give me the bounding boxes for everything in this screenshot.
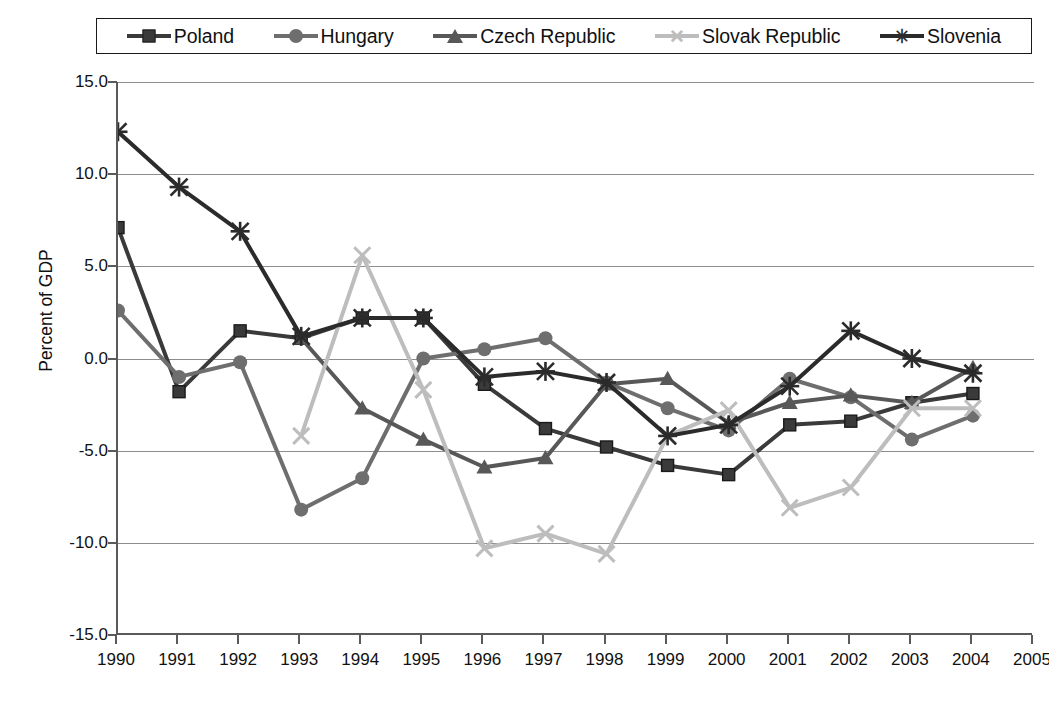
x-axis-tick-mark: [726, 635, 728, 644]
x-marker-icon: ✕: [655, 27, 699, 45]
legend-item-label: Slovak Republic: [699, 25, 840, 48]
x-axis-tick-label: 2005: [997, 650, 1049, 670]
x-axis-tick-label: 2003: [875, 650, 945, 670]
legend-item-label: Poland: [171, 25, 234, 48]
legend-item-label: Czech Republic: [477, 25, 615, 48]
data-point-marker: [536, 362, 555, 381]
data-point-marker: [905, 433, 919, 447]
data-point-marker: [475, 367, 494, 386]
data-point-marker: [172, 370, 186, 384]
data-point-marker: [845, 415, 857, 427]
x-axis-tick-label: 1994: [325, 650, 395, 670]
legend-item-label: Hungary: [318, 25, 394, 48]
data-point-marker: [967, 388, 979, 400]
triangle-marker-icon: [433, 27, 477, 45]
x-axis-tick-label: 1997: [508, 650, 578, 670]
legend-item-hungary[interactable]: Hungary: [274, 25, 394, 48]
x-axis-tick-mark: [237, 635, 239, 644]
data-point-marker: [597, 373, 616, 392]
data-point-marker: [719, 415, 738, 434]
x-axis-tick-mark: [298, 635, 300, 644]
x-axis-tick-label: 1995: [386, 650, 456, 670]
x-axis-tick-label: 2000: [692, 650, 762, 670]
x-axis-tick-mark: [604, 635, 606, 644]
series-slovak-republic: [293, 247, 981, 562]
data-series-svg: [118, 82, 1034, 635]
data-point-marker: [294, 503, 308, 517]
y-axis-tick-label: -10.0: [18, 533, 108, 553]
x-axis-tick-mark: [665, 635, 667, 644]
data-point-marker: [966, 409, 980, 423]
data-point-marker: [233, 355, 247, 369]
data-point-marker: [292, 327, 311, 346]
circle-marker-icon: [274, 27, 318, 45]
legend-item-poland[interactable]: Poland: [127, 25, 234, 48]
x-axis-tick-marks: [116, 635, 1032, 649]
x-axis-tick-mark: [115, 635, 117, 644]
y-axis-tick-label: 15.0: [18, 72, 108, 92]
data-point-marker: [416, 352, 430, 366]
x-axis-tick-label: 1999: [631, 650, 701, 670]
data-point-marker: [780, 377, 799, 396]
x-axis-tick-label: 2001: [753, 650, 823, 670]
x-axis-tick-label: 1992: [203, 650, 273, 670]
x-axis-tick-mark: [481, 635, 483, 644]
legend-marker-sample: ✕: [669, 27, 685, 46]
legend-marker-sample: ✳: [894, 27, 910, 46]
plot-area: [116, 82, 1032, 635]
square-marker-icon: [127, 27, 171, 45]
x-axis-tick-mark: [420, 635, 422, 644]
y-axis-tick-label: 0.0: [18, 349, 108, 369]
x-axis-tick-mark: [1031, 635, 1033, 644]
data-point-marker: [173, 386, 185, 398]
data-point-marker: [539, 423, 551, 435]
y-axis-tick-label: -5.0: [18, 441, 108, 461]
data-point-marker: [601, 441, 613, 453]
legend-marker-sample: [447, 29, 463, 43]
y-axis-tick-label: 10.0: [18, 164, 108, 184]
data-point-marker: [841, 321, 860, 340]
legend-item-slovenia[interactable]: ✳Slovenia: [880, 25, 1001, 48]
legend-item-czech-republic[interactable]: Czech Republic: [433, 25, 615, 48]
legend-marker-sample: [289, 29, 303, 43]
x-axis-tick-labels: 1990199119921993199419951996199719981999…: [116, 650, 1032, 680]
data-point-marker: [723, 469, 735, 481]
x-axis-tick-label: 2004: [936, 650, 1006, 670]
data-point-marker: [355, 471, 369, 485]
data-point-marker: [118, 222, 124, 234]
x-axis-tick-mark: [909, 635, 911, 644]
legend-item-slovak-republic[interactable]: ✕Slovak Republic: [655, 25, 840, 48]
data-point-marker: [414, 308, 433, 327]
star-marker-icon: ✳: [880, 27, 924, 45]
series-line: [118, 228, 973, 475]
x-axis-tick-label: 1996: [447, 650, 517, 670]
data-point-marker: [784, 419, 796, 431]
series-line: [118, 132, 973, 436]
x-axis-tick-label: 1991: [142, 650, 212, 670]
x-axis-tick-label: 1993: [264, 650, 334, 670]
x-axis-tick-mark: [848, 635, 850, 644]
data-point-marker: [415, 382, 431, 398]
legend-marker-sample: [142, 30, 155, 43]
data-point-marker: [170, 178, 189, 197]
x-axis-tick-label: 2002: [814, 650, 884, 670]
data-point-marker: [538, 331, 552, 345]
data-point-marker: [353, 308, 372, 327]
legend-item-label: Slovenia: [924, 25, 1001, 48]
x-axis-tick-mark: [176, 635, 178, 644]
series-poland: [118, 222, 979, 481]
x-axis-tick-mark: [542, 635, 544, 644]
data-point-marker: [662, 459, 674, 471]
data-point-marker: [661, 401, 675, 415]
x-axis-tick-mark: [359, 635, 361, 644]
x-axis-tick-mark: [787, 635, 789, 644]
data-point-marker: [231, 222, 250, 241]
y-axis-tick-label: -15.0: [18, 625, 108, 645]
data-point-marker: [658, 426, 677, 445]
data-point-marker: [477, 342, 491, 356]
x-axis-tick-label: 1990: [81, 650, 151, 670]
chart-container: PolandHungaryCzech Republic✕Slovak Repub…: [0, 0, 1049, 703]
data-point-marker: [902, 349, 921, 368]
data-point-marker: [234, 325, 246, 337]
x-axis-tick-mark: [970, 635, 972, 644]
